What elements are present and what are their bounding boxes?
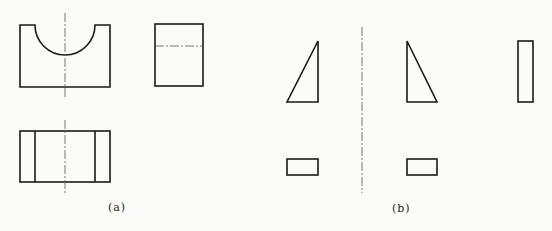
orthographic-projection-figure: (a) (b) [0,0,552,231]
left-triangle [287,41,318,102]
drawing-surface [0,0,552,231]
small-rectangle-right [407,159,437,175]
small-rectangle-left [287,159,318,175]
panel-b-label: (b) [392,202,411,215]
panel-b [287,27,533,193]
side-view-outline [155,24,203,86]
panel-a [20,13,203,194]
right-triangle [407,41,437,102]
tall-rectangle [518,41,533,102]
panel-a-label: (a) [108,201,126,214]
